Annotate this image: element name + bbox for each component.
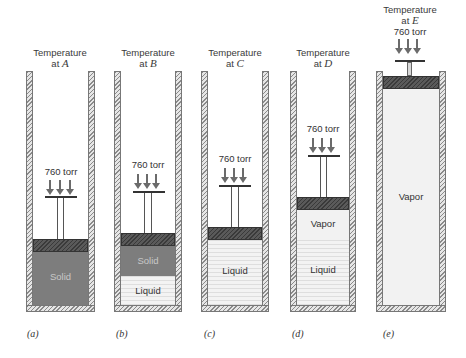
pressure-plate [308, 155, 340, 157]
cylinder-right-wall [88, 71, 95, 312]
cylinder-bottom [114, 305, 182, 312]
phase-label: Solid [121, 255, 175, 266]
solid-phase: Solid [121, 246, 175, 276]
pressure-plate [45, 196, 77, 198]
cylinder-right-wall [349, 71, 356, 312]
piston-rod [151, 191, 152, 233]
pressure-label: 760 torr [385, 26, 435, 37]
piston-rod [144, 191, 145, 233]
cylinder-left-wall [114, 71, 121, 312]
title-prefix: at [51, 58, 62, 69]
temperature-point: A [62, 57, 69, 69]
pressure-label: 760 torr [210, 153, 260, 164]
panel-caption: (e) [383, 328, 394, 339]
title-text: Temperature [296, 47, 349, 58]
temperature-point: D [324, 57, 332, 69]
phase-label: Liquid [208, 265, 262, 276]
arrow-down-icon [398, 39, 400, 49]
panel-b-title: Temperature at B [108, 47, 188, 69]
piston [208, 227, 262, 240]
arrow-down-icon [242, 168, 244, 178]
panel-c-title: Temperature at C [195, 47, 275, 69]
arrow-down-icon [321, 138, 323, 148]
pressure-plate [219, 185, 251, 187]
cylinder-left-wall [290, 71, 297, 312]
panel-caption: (b) [116, 328, 128, 339]
pressure-label: 760 torr [298, 123, 348, 134]
arrow-down-icon [416, 39, 418, 49]
arrow-down-icon [137, 174, 139, 184]
title-prefix: at [226, 58, 237, 69]
title-text: Temperature [121, 47, 174, 58]
arrow-down-icon [69, 180, 71, 190]
arrow-down-icon [407, 39, 409, 49]
cylinder-right-wall [439, 71, 446, 312]
cylinder-left-wall [201, 71, 208, 312]
arrow-down-icon [59, 180, 61, 190]
arrow-down-icon [224, 168, 226, 178]
temperature-point: E [412, 14, 419, 26]
cylinder-left-wall [26, 71, 33, 312]
liquid-phase: Liquid [121, 276, 175, 305]
piston [33, 239, 88, 252]
arrow-down-icon [146, 174, 148, 184]
cylinder-bottom [201, 305, 269, 312]
phase-label: Solid [33, 271, 88, 282]
title-text: Temperature [208, 47, 261, 58]
arrow-down-icon [49, 180, 51, 190]
piston [383, 76, 439, 89]
phase-label: Liquid [297, 264, 349, 275]
pressure-plate [133, 191, 165, 193]
pressure-label: 760 torr [36, 166, 86, 177]
title-prefix: at [314, 58, 325, 69]
cylinder-right-wall [175, 71, 182, 312]
arrow-down-icon [155, 174, 157, 184]
temperature-point: B [150, 57, 157, 69]
piston [297, 197, 349, 210]
vapor-phase: Vapor [297, 209, 349, 240]
phase-label: Vapor [383, 191, 439, 202]
cylinder-bottom [26, 305, 95, 312]
vapor-phase: Vapor [383, 88, 439, 305]
panel-caption: (a) [27, 328, 39, 339]
cylinder-left-wall [376, 71, 383, 312]
cylinder-right-wall [262, 71, 269, 312]
piston-rod [326, 155, 327, 197]
piston-rod [320, 155, 321, 197]
arrow-down-icon [312, 138, 314, 148]
piston [121, 233, 175, 246]
solid-phase: Solid [33, 251, 88, 305]
title-text: Temperature [33, 47, 86, 58]
piston-rod [238, 185, 239, 227]
title-text: Temperature [383, 4, 436, 15]
cylinder-bottom [376, 305, 446, 312]
title-prefix: at [139, 58, 150, 69]
panel-e-title: Temperature at E [370, 4, 450, 26]
title-prefix: at [401, 15, 412, 26]
arrow-down-icon [330, 138, 332, 148]
temperature-point: C [237, 57, 244, 69]
piston-rod [231, 185, 232, 227]
phase-label: Vapor [297, 218, 349, 229]
panel-caption: (d) [292, 328, 304, 339]
piston-rod [63, 196, 64, 239]
cylinder-bottom [290, 305, 356, 312]
panel-a-title: Temperature at A [20, 47, 100, 69]
liquid-phase: Liquid [208, 240, 262, 305]
piston-rod [57, 196, 58, 239]
arrow-down-icon [233, 168, 235, 178]
panel-d-title: Temperature at D [283, 47, 363, 69]
piston-rod-coupling [407, 62, 412, 76]
panel-caption: (c) [204, 328, 215, 339]
phase-label: Liquid [121, 285, 175, 296]
pressure-label: 760 torr [123, 159, 173, 170]
liquid-phase: Liquid [297, 240, 349, 305]
